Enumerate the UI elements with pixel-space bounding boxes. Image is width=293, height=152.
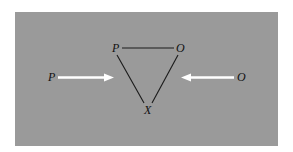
- arrow-left-icon: [181, 74, 234, 82]
- edge-p-x: [117, 55, 144, 103]
- arrow-right-icon: [58, 74, 114, 82]
- arrow-label-p: P: [47, 70, 56, 84]
- node-label-o: O: [176, 41, 185, 55]
- edge-o-x: [152, 55, 178, 103]
- node-label-x: X: [143, 103, 152, 117]
- balance-triangle-diagram: P O X P O: [0, 0, 293, 152]
- arrow-label-o: O: [237, 70, 246, 84]
- node-label-p: P: [111, 41, 120, 55]
